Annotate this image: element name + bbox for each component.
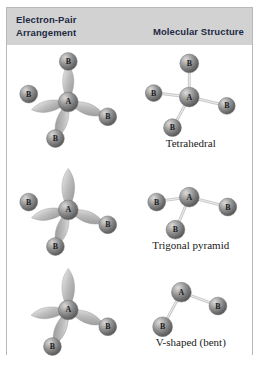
row-trigonal-pyramid: B B B A (7, 155, 252, 260)
figure-panel: Electron-Pair Arrangement Molecular Stru… (6, 7, 253, 355)
atom-label-b: B (105, 322, 111, 331)
terminal-atom-right: B (99, 108, 117, 126)
atom-label-b: B (50, 342, 56, 351)
central-atom: A (179, 187, 199, 207)
atom-label-b: B (105, 112, 111, 121)
lobe-model-v-shaped: B B A (7, 260, 130, 355)
atom-label-b: B (105, 220, 111, 229)
molecular-structure-tetrahedral: B B B B (130, 45, 253, 155)
terminal-atom-left: B (20, 193, 38, 211)
atom-label-b: B (66, 57, 72, 66)
atom-label-b: B (215, 302, 221, 311)
terminal-atom-left: B (147, 193, 165, 211)
atom-label-b: B (151, 89, 157, 98)
atom-label-b: B (224, 101, 230, 110)
terminal-atom-up: B (179, 54, 198, 73)
terminal-atom-right: B (99, 318, 117, 336)
atom-label-b: B (53, 242, 59, 251)
central-atom: A (58, 200, 78, 220)
atom-label-b: B (159, 322, 165, 331)
electron-pair-diagram-trigonal-pyramid: B B B A (7, 155, 130, 260)
atom-label-a: A (178, 288, 184, 297)
central-atom: A (58, 300, 78, 320)
central-atom: A (179, 87, 199, 107)
atom-label-b: B (225, 203, 231, 212)
terminal-atom-left: B (20, 85, 38, 103)
terminal-atom-lower-left: B (47, 238, 65, 256)
caption-v-shaped-bent: V-shaped (bent) (130, 336, 253, 348)
atom-label-a: A (186, 193, 192, 202)
figure-body: B B B B (7, 45, 252, 355)
terminal-atom-lower-left: B (163, 119, 181, 137)
terminal-atom-lower-left: B (152, 317, 172, 337)
atom-label-b: B (26, 198, 32, 207)
terminal-atom-right: B (209, 297, 227, 315)
atom-label-b: B (186, 59, 192, 68)
central-atom: A (171, 282, 191, 302)
header-molecular-structure: Molecular Structure (104, 26, 244, 37)
terminal-atom-left: B (145, 85, 162, 102)
atom-label-b: B (169, 123, 175, 132)
atom-label-b: B (172, 225, 178, 234)
atom-label-a: A (65, 97, 71, 106)
row-v-shaped-bent: B B A (7, 260, 252, 355)
atom-label-b: B (26, 90, 32, 99)
atom-label-b: B (53, 134, 59, 143)
terminal-atom-lower-left: B (47, 130, 65, 148)
lobe-model-tetrahedral: B B B B (7, 45, 130, 155)
molecular-structure-trigonal-pyramid: B B B A (130, 155, 253, 260)
atom-label-b: B (154, 198, 160, 207)
caption-tetrahedral: Tetrahedral (130, 137, 253, 149)
lobe-model-trigonal-pyramid: B B B A (7, 155, 130, 260)
terminal-atom-right: B (99, 216, 117, 234)
header-left-line1: Electron-Pair (16, 13, 136, 26)
terminal-atom-lower-left: B (44, 338, 62, 356)
atom-label-a: A (65, 305, 71, 314)
row-tetrahedral: B B B B (7, 45, 252, 155)
terminal-atom-right: B (218, 198, 236, 216)
central-atom: A (58, 92, 78, 112)
figure-header: Electron-Pair Arrangement Molecular Stru… (7, 8, 252, 45)
atom-label-a: A (65, 205, 71, 214)
electron-pair-diagram-v-shaped: B B A (7, 260, 130, 355)
molecular-structure-v-shaped: B B A V-shaped (bent) (130, 260, 253, 355)
terminal-atom-right: B (218, 98, 235, 115)
electron-pair-diagram-tetrahedral: B B B B (7, 45, 130, 155)
terminal-atom-up: B (59, 53, 77, 71)
atom-label-a: A (186, 93, 192, 102)
caption-trigonal-pyramid: Trigonal pyramid (130, 239, 253, 251)
terminal-atom-lower-left: B (166, 220, 185, 239)
